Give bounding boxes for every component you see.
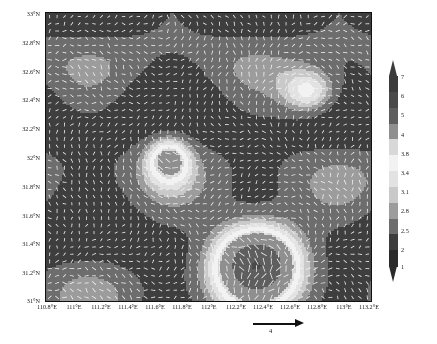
- colorbar-band: [389, 187, 398, 203]
- x-tick-label: 111.8°E: [172, 303, 192, 310]
- x-tick-label: 111°E: [66, 303, 81, 310]
- y-tick-label: 32.6°N: [0, 67, 40, 74]
- y-tick-label: 31.2°N: [0, 269, 40, 276]
- y-tick-label: 32°N: [0, 154, 40, 161]
- colorbar-tick-label: 3.1: [401, 188, 409, 195]
- colorbar-extend-bottom-arrow: [389, 266, 397, 282]
- colorbar-band: [389, 234, 398, 250]
- colorbar-tick-label: 5: [401, 111, 404, 118]
- x-tick-label: 111.6°E: [145, 303, 165, 310]
- colorbar-tick-label: 1: [401, 263, 404, 270]
- colorbar-tick-label: 2.5: [401, 226, 409, 233]
- colorbar-tick-label: 6: [401, 92, 404, 99]
- reference-arrow-icon: [253, 323, 297, 325]
- x-tick-label: 113°E: [336, 303, 351, 310]
- x-tick-label: 112°E: [201, 303, 216, 310]
- x-tick-label: 112.8°E: [307, 303, 327, 310]
- colorbar-tick-label: 3.4: [401, 169, 409, 176]
- colorbar-extend-top-arrow: [389, 60, 397, 76]
- colorbar-tick-label: 2: [401, 245, 404, 252]
- colorbar: 7 6 5 4 3.8 3.4 3.1 2.8 2.5 2 1: [386, 60, 437, 290]
- y-tick-label: 31°N: [0, 297, 40, 304]
- y-tick-label: 31.4°N: [0, 240, 40, 247]
- x-tick-label: 111.2°E: [91, 303, 111, 310]
- x-tick-label: 112.2°E: [226, 303, 246, 310]
- arrow-head-icon: [295, 319, 304, 327]
- colorbar-band: [389, 203, 398, 219]
- x-tick-label: 112.6°E: [280, 303, 300, 310]
- y-tick-label: 32.8°N: [0, 38, 40, 45]
- colorbar-tick-label: 7: [401, 73, 404, 80]
- y-tick-label: 33°N: [0, 10, 40, 17]
- x-tick-label: 113.2°E: [359, 303, 379, 310]
- reference-arrow-label: 4: [269, 327, 272, 334]
- colorbar-tick-label: 2.8: [401, 207, 409, 214]
- x-tick-label: 110.8°E: [37, 303, 57, 310]
- colorbar-band: [389, 92, 398, 108]
- y-tick-label: 32.2°N: [0, 125, 40, 132]
- colorbar-band: [389, 76, 398, 92]
- colorbar-bands: [389, 76, 398, 266]
- vector-scale-legend: 4: [253, 318, 313, 342]
- y-tick-label: 31.8°N: [0, 182, 40, 189]
- y-tick-label: 31.6°N: [0, 211, 40, 218]
- colorbar-band: [389, 250, 398, 266]
- colorbar-tick-label: 4: [401, 130, 404, 137]
- colorbar-band: [389, 155, 398, 171]
- x-tick-label: 112.4°E: [253, 303, 273, 310]
- wind-vector-field-figure: 33°N 32.8°N 32.6°N 32.4°N 32.2°N 32°N 31…: [0, 0, 437, 344]
- colorbar-band: [389, 139, 398, 155]
- colorbar-band: [389, 219, 398, 235]
- colorbar-band: [389, 171, 398, 187]
- y-axis: 33°N 32.8°N 32.6°N 32.4°N 32.2°N 32°N 31…: [0, 0, 437, 344]
- y-tick-label: 32.4°N: [0, 96, 40, 103]
- colorbar-tick-label: 3.8: [401, 149, 409, 156]
- x-tick-label: 111.4°E: [118, 303, 138, 310]
- colorbar-band: [389, 108, 398, 124]
- colorbar-band: [389, 124, 398, 140]
